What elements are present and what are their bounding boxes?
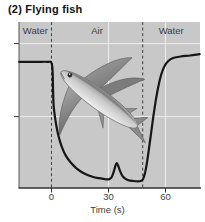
phase-label-air: Air	[91, 25, 103, 36]
phase-label-water-left: Water	[23, 25, 48, 36]
x-tick-label-0: 0	[49, 191, 54, 202]
x-tick-label-30: 30	[103, 191, 114, 202]
figure-panel: (2) Flying fish	[0, 0, 205, 222]
x-axis-title: Time (s)	[90, 204, 124, 215]
phase-label-water-right: Water	[159, 25, 184, 36]
x-tick-label-60: 60	[160, 191, 171, 202]
